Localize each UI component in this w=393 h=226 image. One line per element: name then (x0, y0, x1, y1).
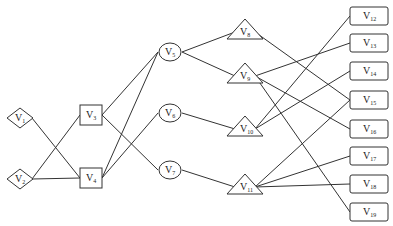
node-v17: V17 (350, 147, 388, 165)
node-v8: V8 (227, 19, 263, 39)
edge-v3-v5 (102, 52, 158, 115)
node-v5: V5 (159, 43, 181, 61)
node-v14: V14 (350, 62, 388, 80)
edge-v11-v15 (255, 100, 350, 187)
node-v19: V19 (350, 203, 388, 221)
edge-v11-v18 (255, 184, 350, 187)
edge-v7-v11 (182, 170, 235, 187)
graph-diagram: V1V2V3V4V5V6V7V8V9V10V11V12V13V14V15V16V… (0, 0, 393, 226)
node-v2: V2 (7, 169, 33, 189)
node-v7: V7 (159, 161, 181, 179)
node-v3: V3 (80, 105, 102, 125)
node-v9: V9 (227, 63, 263, 83)
node-v6: V6 (159, 104, 181, 122)
node-v12: V12 (350, 7, 388, 25)
node-v16: V16 (350, 120, 388, 138)
node-v15: V15 (350, 91, 388, 109)
node-v18: V18 (350, 175, 388, 193)
edge-v8-v15 (255, 32, 350, 100)
node-v4: V4 (80, 168, 102, 188)
node-v13: V13 (350, 34, 388, 52)
edge-v10-v12 (255, 16, 350, 129)
edge-v2-v4 (32, 178, 80, 179)
edge-v9-v13 (255, 43, 350, 76)
edge-v11-v17 (255, 156, 350, 187)
edge-v9-v16 (255, 76, 350, 129)
edge-v4-v5 (102, 52, 158, 178)
edge-v5-v8 (182, 32, 235, 52)
edge-v10-v14 (255, 71, 350, 129)
edge-v6-v10 (182, 113, 235, 129)
edge-v5-v9 (182, 52, 235, 76)
node-v1: V1 (7, 108, 33, 128)
